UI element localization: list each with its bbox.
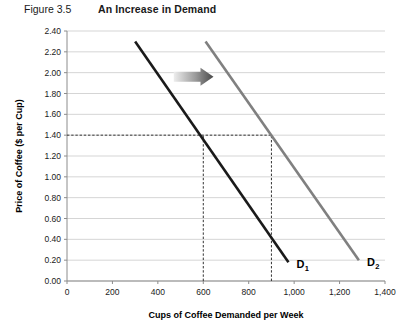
x-tick-label: 0 bbox=[65, 287, 70, 297]
x-tick-label: 600 bbox=[196, 287, 210, 297]
demand-curves bbox=[135, 41, 359, 262]
figure-container: Figure 3.5 An Increase in Demand 0.000.2… bbox=[0, 0, 410, 330]
x-tick-label: 1,400 bbox=[374, 287, 396, 297]
demand-curve-d2 bbox=[206, 41, 359, 260]
demand-curve-d1 bbox=[135, 41, 288, 262]
curve-label-d2: D2 bbox=[367, 256, 380, 271]
demand-curve-labels: D1D2 bbox=[296, 256, 379, 273]
y-tick-label: 0.40 bbox=[44, 234, 61, 244]
y-tick-label: 0.80 bbox=[44, 193, 61, 203]
x-axis-title: Cups of Coffee Demanded per Week bbox=[149, 310, 305, 320]
x-axis-tick-labels: 02004006008001,0001,2001,400 bbox=[65, 287, 396, 297]
y-tick-label: 1.80 bbox=[44, 89, 61, 99]
y-tick-label: 0.60 bbox=[44, 214, 61, 224]
y-tick-label: 1.40 bbox=[44, 130, 61, 140]
x-tick-label: 400 bbox=[151, 287, 165, 297]
right-arrow-icon bbox=[174, 68, 214, 86]
y-tick-label: 2.00 bbox=[44, 68, 61, 78]
y-tick-label: 0.00 bbox=[44, 276, 61, 286]
demand-shift-arrow bbox=[174, 68, 214, 86]
y-tick-label: 0.20 bbox=[44, 255, 61, 265]
y-tick-label: 1.20 bbox=[44, 151, 61, 161]
x-tick-label: 1,200 bbox=[329, 287, 351, 297]
x-tick-label: 200 bbox=[105, 287, 119, 297]
y-tick-label: 2.40 bbox=[44, 26, 61, 36]
y-tick-label: 2.20 bbox=[44, 47, 61, 57]
x-tick-label: 800 bbox=[242, 287, 256, 297]
y-tick-label: 1.00 bbox=[44, 172, 61, 182]
y-axis-title: Price of Coffee ($ per Cup) bbox=[14, 99, 24, 213]
guide-lines bbox=[67, 135, 271, 281]
y-axis-tick-labels: 0.000.200.400.600.801.001.201.401.601.80… bbox=[44, 26, 67, 286]
demand-chart: 0.000.200.400.600.801.001.201.401.601.80… bbox=[0, 0, 410, 330]
y-tick-label: 1.60 bbox=[44, 109, 61, 119]
x-tick-label: 1,000 bbox=[284, 287, 306, 297]
